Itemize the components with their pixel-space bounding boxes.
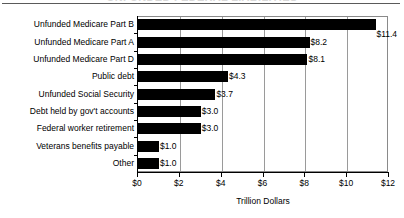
value-label: $11.4	[376, 30, 397, 39]
value-label: $3.7	[216, 90, 233, 99]
category-label: Unfunded Medicare Part A	[2, 38, 134, 47]
value-label: $8.2	[311, 38, 328, 47]
category-label: Other	[2, 159, 134, 168]
x-tick-label-12: $12	[381, 178, 395, 188]
x-axis-title: Trillion Dollars	[137, 196, 389, 206]
x-tick-mark-2	[179, 173, 180, 177]
y-tick-mark	[134, 51, 137, 52]
x-tick-label-4: $4	[216, 178, 225, 188]
bar	[138, 19, 376, 30]
bar	[138, 37, 310, 48]
category-label: Debt held by gov't accounts	[2, 107, 134, 116]
x-tick-mark-6	[263, 173, 264, 177]
value-label: $1.0	[160, 159, 177, 168]
bar	[138, 89, 215, 100]
x-tick-mark-10	[346, 173, 347, 177]
x-tick-mark-0	[137, 173, 138, 177]
y-tick-mark	[134, 85, 137, 86]
value-label: $8.1	[308, 55, 325, 64]
category-label: Veterans benefits payable	[2, 142, 134, 151]
y-tick-mark	[134, 33, 137, 34]
category-label: Unfunded Social Security	[2, 90, 134, 99]
x-tick-label-2: $2	[174, 178, 183, 188]
x-tick-label-10: $10	[339, 178, 353, 188]
gridline-10	[347, 17, 348, 171]
value-label: $1.0	[160, 142, 177, 151]
header-divider	[2, 3, 400, 4]
y-tick-mark	[134, 68, 137, 69]
x-tick-label-6: $6	[258, 178, 267, 188]
category-label: Public debt	[2, 72, 134, 81]
y-tick-mark	[134, 155, 137, 156]
value-label: $3.0	[202, 107, 219, 116]
x-tick-mark-12	[388, 173, 389, 177]
category-label: Unfunded Medicare Part D	[2, 55, 134, 64]
bar	[138, 54, 307, 65]
x-tick-mark-8	[304, 173, 305, 177]
category-label: Federal worker retirement	[2, 124, 134, 133]
chart-figure: UNFUNDED FEDERAL LIABILITIES Unfunded Me…	[0, 0, 404, 218]
x-tick-mark-4	[221, 173, 222, 177]
y-tick-mark	[134, 137, 137, 138]
value-label: $4.3	[229, 72, 246, 81]
x-tick-label-0: $0	[132, 178, 141, 188]
y-tick-mark	[134, 103, 137, 104]
bar	[138, 71, 228, 82]
y-tick-mark	[134, 120, 137, 121]
bar	[138, 141, 159, 152]
category-label: Unfunded Medicare Part B	[2, 20, 134, 29]
bar	[138, 158, 159, 169]
bar	[138, 123, 201, 134]
x-tick-label-8: $8	[300, 178, 309, 188]
bar	[138, 106, 201, 117]
value-label: $3.0	[202, 124, 219, 133]
